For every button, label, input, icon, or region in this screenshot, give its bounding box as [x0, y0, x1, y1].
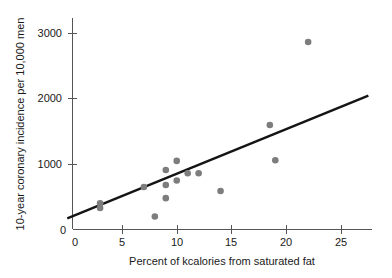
data-point — [305, 39, 312, 46]
data-point — [163, 167, 170, 174]
y-axis-tick-labels: 3000 2000 1000 0 — [38, 27, 66, 236]
scatter-plot-figure: 3000 2000 1000 0 0 5 10 15 20 25 Percent… — [0, 0, 392, 278]
data-point — [173, 177, 180, 184]
x-tick-label-25: 25 — [335, 236, 347, 248]
data-point — [141, 184, 148, 191]
x-tick-label-15: 15 — [225, 236, 237, 248]
x-tick-label-0: 0 — [72, 236, 78, 248]
data-point — [195, 170, 202, 177]
data-point — [97, 205, 104, 212]
y-axis-title: 10-year coronary incidence per 10,000 me… — [14, 18, 26, 231]
y-tick-label-1000: 1000 — [38, 158, 62, 170]
data-point — [272, 157, 279, 164]
x-tick-label-10: 10 — [171, 236, 183, 248]
y-tick-label-2000: 2000 — [38, 92, 62, 104]
x-tick-label-20: 20 — [280, 236, 292, 248]
y-tick-label-3000: 3000 — [38, 27, 62, 39]
x-axis-title: Percent of kcalories from saturated fat — [129, 255, 315, 267]
plot-canvas: 3000 2000 1000 0 0 5 10 15 20 25 Percent… — [0, 0, 392, 278]
data-point — [184, 170, 191, 177]
data-point — [173, 158, 180, 165]
y-tick-label-0: 0 — [60, 224, 66, 236]
data-point — [267, 122, 274, 129]
x-axis-tick-labels: 0 5 10 15 20 25 — [72, 236, 347, 248]
data-point — [152, 213, 159, 220]
data-point — [217, 188, 224, 195]
regression-line-segment — [67, 96, 368, 219]
regression-line — [67, 96, 368, 219]
x-tick-label-5: 5 — [119, 236, 125, 248]
data-point — [163, 195, 170, 202]
data-point — [163, 182, 170, 189]
